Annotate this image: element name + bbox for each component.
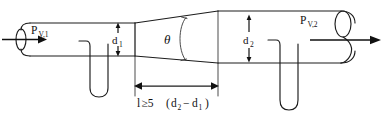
outlet-tap-tube — [268, 40, 298, 110]
outlet-pressure-tap — [268, 40, 298, 110]
length-symbol: l — [137, 97, 140, 109]
length-term1-base: d — [171, 97, 177, 109]
large-pipe-cap-lower — [341, 51, 355, 63]
d2-label-subscript: 2 — [250, 40, 254, 49]
length-open-paren: ( — [166, 97, 170, 110]
inlet-pressure-subscript: V,1 — [39, 30, 49, 39]
inlet-pressure-tap — [79, 41, 108, 97]
outlet-pressure-base: P — [300, 14, 306, 26]
outlet-arrow-head — [370, 36, 381, 44]
outlet-pressure-label: P V,2 — [300, 14, 318, 29]
theta-label: θ — [164, 32, 171, 47]
length-dimension-arrow — [134, 82, 219, 90]
d2-label-base: d — [243, 34, 249, 46]
theta-arc — [180, 18, 186, 61]
diagram-canvas: P V,1 d 1 — [0, 0, 384, 120]
outlet-opening-ellipse-upper — [335, 11, 351, 37]
large-pipe-body — [218, 11, 355, 63]
cone-angle-indicator: θ — [164, 17, 187, 61]
length-close-paren: ) — [205, 97, 209, 110]
outlet-opening-curve-lower — [341, 37, 352, 63]
d1-label-base: d — [112, 34, 118, 46]
length-condition-label: l ≥5 ( d 2 − d 1 ) — [137, 97, 209, 112]
length-minus: − — [183, 97, 190, 109]
d2-dimension: d 2 — [243, 15, 254, 63]
d2-arrow-head-top — [247, 15, 252, 21]
d1-label-subscript: 1 — [119, 40, 123, 49]
conical-diffuser — [135, 11, 218, 63]
length-term2-sub: 1 — [199, 103, 203, 112]
length-term1-sub: 2 — [178, 103, 182, 112]
inlet-tap-tube — [79, 41, 108, 97]
outlet-flow-arrow — [310, 36, 381, 44]
length-extension-lines — [135, 11, 218, 96]
inlet-pressure-label: P V,1 — [31, 24, 49, 39]
inlet-pressure-base: P — [31, 24, 37, 36]
length-relation: ≥5 — [142, 97, 154, 109]
d2-arrow-head-bottom — [247, 57, 252, 63]
cone-lower-wall — [135, 56, 218, 63]
cone-upper-wall — [135, 11, 218, 23]
pipe-expansion-diagram: P V,1 d 1 — [0, 0, 384, 120]
large-pipe-cap-upper — [341, 11, 355, 23]
outlet-pressure-subscript: V,2 — [308, 20, 318, 29]
d1-dimension: d 1 — [112, 23, 123, 57]
length-term2-base: d — [192, 97, 198, 109]
